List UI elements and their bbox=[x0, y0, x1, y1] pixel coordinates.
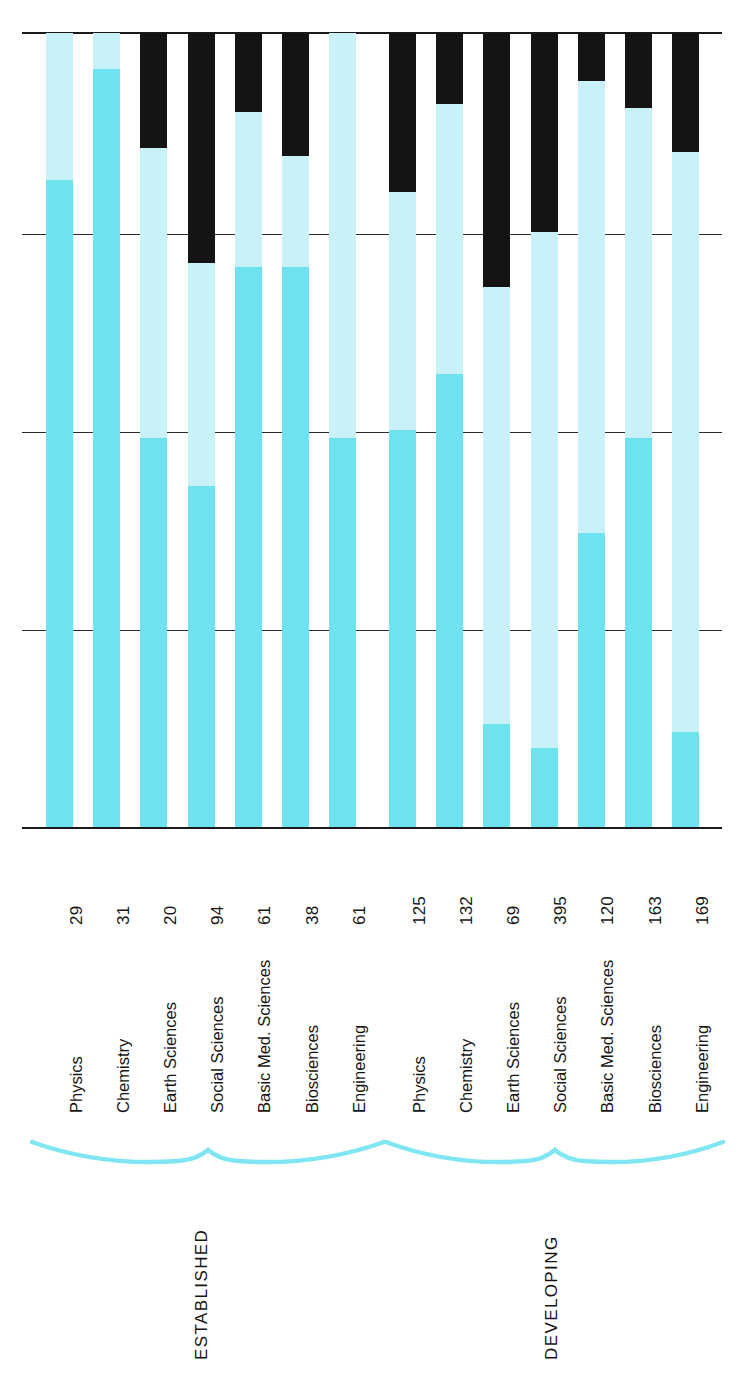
bar-cap bbox=[531, 33, 558, 232]
plot-area bbox=[0, 0, 737, 840]
bar-cap bbox=[483, 33, 510, 287]
bar-fill bbox=[672, 732, 699, 827]
bar-value-label: 69 bbox=[504, 906, 524, 925]
bar-cap bbox=[282, 33, 309, 156]
bar-value-label: 38 bbox=[303, 906, 323, 925]
brace-developing bbox=[382, 1128, 727, 1178]
bar-slot bbox=[188, 33, 215, 827]
bar-category-label: Chemistry bbox=[457, 1039, 476, 1113]
bar-fill bbox=[625, 438, 652, 827]
gridline-2 bbox=[22, 432, 722, 433]
bar-fill bbox=[436, 374, 463, 827]
bar-category-label: Engineering bbox=[693, 1025, 712, 1113]
bar-fill bbox=[531, 748, 558, 827]
group-label-established: ESTABLISHED bbox=[192, 1229, 212, 1360]
bar-value-label: 163 bbox=[646, 896, 666, 925]
bar-fill bbox=[282, 267, 309, 827]
baseline-axis bbox=[22, 827, 722, 829]
bar-fill bbox=[389, 430, 416, 827]
bar-fill bbox=[578, 533, 605, 827]
bar-cap bbox=[436, 33, 463, 104]
bar-value-label: 94 bbox=[208, 906, 228, 925]
bar-category-label: Biosciences bbox=[646, 1025, 665, 1113]
bar-slot bbox=[578, 33, 605, 827]
bar-fill bbox=[235, 267, 262, 827]
bar-value-label: 20 bbox=[161, 906, 181, 925]
bar-cap bbox=[672, 33, 699, 152]
bar-fill bbox=[188, 486, 215, 827]
bar-fill bbox=[93, 69, 120, 827]
bar-cap bbox=[188, 33, 215, 263]
bar-category-label: Physics bbox=[67, 1056, 86, 1113]
bar-fill bbox=[140, 438, 167, 827]
bar-fill bbox=[46, 180, 73, 827]
bar-cap bbox=[235, 33, 262, 112]
bar-value-label: 125 bbox=[410, 896, 430, 925]
chart-root: 2931209461386112513269395120163169 Physi… bbox=[0, 0, 737, 1375]
bar-track bbox=[672, 33, 699, 827]
bar-category-label: Engineering bbox=[350, 1025, 369, 1113]
bar-slot bbox=[625, 33, 652, 827]
bar-value-label: 29 bbox=[67, 906, 87, 925]
bar-slot bbox=[672, 33, 699, 827]
bar-category-label: Basic Med. Sciences bbox=[255, 960, 274, 1113]
bar-category-label: Social Sciences bbox=[551, 997, 570, 1113]
bar-slot bbox=[235, 33, 262, 827]
bar-cap bbox=[625, 33, 652, 108]
bar-category-label: Physics bbox=[410, 1056, 429, 1113]
bar-slot bbox=[436, 33, 463, 827]
bar-value-label: 61 bbox=[255, 906, 275, 925]
bar-slot bbox=[483, 33, 510, 827]
bar-fill bbox=[483, 724, 510, 827]
bar-category-label: Earth Sciences bbox=[161, 1002, 180, 1113]
bar-category-label: Social Sciences bbox=[208, 997, 227, 1113]
bar-fill bbox=[329, 438, 356, 827]
bar-category-label: Chemistry bbox=[114, 1039, 133, 1113]
group-label-developing: DEVELOPING bbox=[542, 1235, 562, 1360]
bar-cap bbox=[140, 33, 167, 148]
brace-established bbox=[28, 1128, 388, 1178]
top-axis-line bbox=[22, 32, 722, 34]
bar-slot bbox=[389, 33, 416, 827]
gridline-1 bbox=[22, 234, 722, 235]
bar-value-label: 120 bbox=[598, 896, 618, 925]
bar-slot bbox=[46, 33, 73, 827]
bar-value-label: 132 bbox=[457, 896, 477, 925]
bar-category-label: Biosciences bbox=[303, 1025, 322, 1113]
bar-cap bbox=[389, 33, 416, 192]
bar-category-label: Earth Sciences bbox=[504, 1002, 523, 1113]
bar-value-label: 395 bbox=[551, 896, 571, 925]
bar-slot bbox=[329, 33, 356, 827]
bar-slot bbox=[531, 33, 558, 827]
bar-slot bbox=[93, 33, 120, 827]
bar-category-label: Basic Med. Sciences bbox=[598, 960, 617, 1113]
bar-value-label: 169 bbox=[693, 896, 713, 925]
bar-value-label: 31 bbox=[114, 906, 134, 925]
bar-cap bbox=[578, 33, 605, 81]
bar-value-label: 61 bbox=[350, 906, 370, 925]
gridline-3 bbox=[22, 630, 722, 631]
bar-slot bbox=[282, 33, 309, 827]
bar-slot bbox=[140, 33, 167, 827]
